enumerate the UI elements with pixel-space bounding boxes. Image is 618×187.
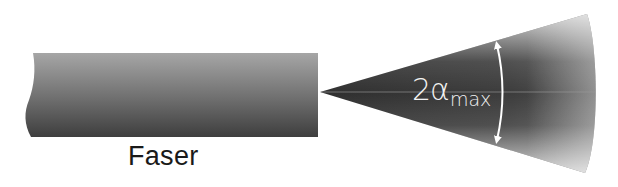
angle-subscript: max <box>450 88 491 110</box>
acceptance-angle-label: 2αmax <box>412 72 491 107</box>
diagram-canvas <box>0 0 618 187</box>
fiber-body <box>25 53 318 137</box>
fiber-acceptance-cone-diagram: 2αmax Faser <box>0 0 618 187</box>
fiber-label: Faser <box>128 141 199 172</box>
angle-symbol: 2α <box>412 72 449 107</box>
